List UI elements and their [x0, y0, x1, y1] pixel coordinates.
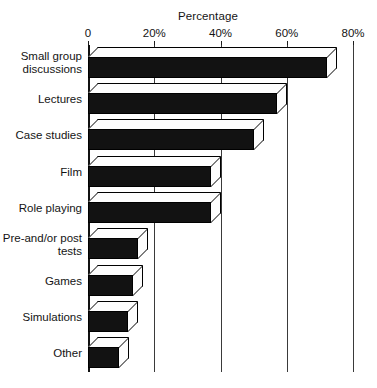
bar-6 — [88, 275, 133, 296]
category-label-0: Small groupdiscussions — [0, 50, 82, 76]
category-label-line: Other — [0, 347, 82, 360]
bar-chart: Percentage 020%40%60%80% Small groupdisc… — [0, 0, 377, 388]
category-label-line: Lectures — [0, 93, 82, 106]
category-label-line: Role playing — [0, 202, 82, 215]
bar-3 — [88, 166, 211, 187]
category-label-line: tests — [0, 245, 82, 258]
x-tick-label-0: 0 — [65, 27, 111, 39]
category-label-1: Lectures — [0, 93, 82, 106]
x-axis-title: Percentage — [128, 10, 288, 22]
category-label-5: Pre-and/or posttests — [0, 232, 82, 258]
bar-front-face — [88, 347, 119, 368]
category-label-3: Film — [0, 166, 82, 179]
bar-front-face — [88, 166, 211, 187]
category-label-8: Other — [0, 347, 82, 360]
bar-1 — [88, 93, 277, 114]
bar-0 — [88, 57, 327, 78]
x-tick-label-3: 60% — [264, 27, 310, 39]
bar-7 — [88, 311, 128, 332]
bar-top-face — [88, 119, 264, 129]
x-tick-label-2: 40% — [198, 27, 244, 39]
bar-top-face — [88, 83, 287, 93]
bar-front-face — [88, 238, 138, 259]
bar-top-face — [88, 156, 221, 166]
category-label-4: Role playing — [0, 202, 82, 215]
category-label-line: Film — [0, 166, 82, 179]
category-label-2: Case studies — [0, 129, 82, 142]
category-label-7: Simulations — [0, 311, 82, 324]
bar-front-face — [88, 275, 133, 296]
category-label-line: discussions — [0, 63, 82, 76]
x-tick-label-4: 80% — [330, 27, 376, 39]
category-label-line: Case studies — [0, 129, 82, 142]
bar-8 — [88, 347, 119, 368]
category-label-line: Small group — [0, 50, 82, 63]
category-label-line: Games — [0, 275, 82, 288]
bar-front-face — [88, 57, 327, 78]
category-label-line: Pre-and/or post — [0, 232, 82, 245]
gridline-4 — [353, 45, 354, 372]
category-label-6: Games — [0, 275, 82, 288]
bar-4 — [88, 202, 211, 223]
bar-5 — [88, 238, 138, 259]
category-label-line: Simulations — [0, 311, 82, 324]
bar-2 — [88, 129, 254, 150]
bar-front-face — [88, 202, 211, 223]
bar-front-face — [88, 129, 254, 150]
bar-top-face — [88, 192, 221, 202]
x-tick-label-1: 20% — [131, 27, 177, 39]
bar-top-face — [88, 47, 337, 57]
bar-front-face — [88, 311, 128, 332]
bar-front-face — [88, 93, 277, 114]
